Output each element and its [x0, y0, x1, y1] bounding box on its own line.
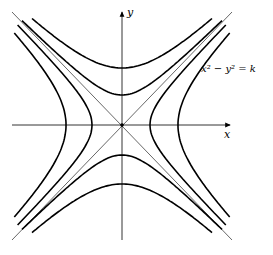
origin-dot — [120, 123, 124, 127]
equation-label: x² − y² = k — [201, 63, 256, 74]
hyperbola-diagram: x y x² − y² = k — [0, 0, 273, 255]
y-axis-label: y — [126, 6, 134, 19]
x-axis-label: x — [224, 128, 231, 141]
